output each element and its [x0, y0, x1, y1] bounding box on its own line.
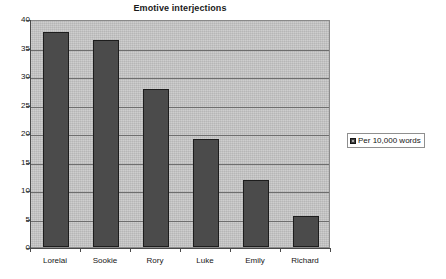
x-axis-tick-mark-2 [130, 248, 131, 252]
bar-luke [193, 139, 219, 247]
bar-rory [143, 89, 169, 247]
x-axis-tick-mark-5 [280, 248, 281, 252]
y-axis-tick-mark-30 [26, 77, 30, 78]
y-axis: 4035302520151050 [0, 0, 30, 279]
x-axis-tick-mark-3 [180, 248, 181, 252]
y-axis-tick-mark-15 [26, 163, 30, 164]
chart-title: Emotive interjections [30, 3, 330, 13]
x-axis-tick-mark-4 [230, 248, 231, 252]
y-axis-tick-mark-20 [26, 134, 30, 135]
gridline-35 [31, 50, 329, 51]
bar-emily [243, 180, 269, 247]
bar-lorelai [43, 32, 69, 247]
y-axis-tick-mark-10 [26, 191, 30, 192]
x-axis-tick-mark-1 [80, 248, 81, 252]
y-axis-line [30, 20, 31, 249]
y-axis-tick-mark-40 [26, 20, 30, 21]
bar-sookie [93, 40, 119, 247]
legend-label-per-10000-words: Per 10,000 words [358, 136, 421, 145]
y-axis-tick-mark-25 [26, 106, 30, 107]
x-axis-tick-label-sookie: Sookie [80, 256, 130, 265]
gridline-30 [31, 78, 329, 79]
plot-area [30, 20, 330, 248]
gridline-10 [31, 192, 329, 193]
x-axis-tick-label-luke: Luke [180, 256, 230, 265]
bar-chart: Emotive interjections 4035302520151050 L… [0, 0, 446, 279]
gridline-25 [31, 107, 329, 108]
gridline-20 [31, 135, 329, 136]
gridline-5 [31, 221, 329, 222]
x-axis-tick-label-richard: Richard [280, 256, 330, 265]
y-axis-tick-mark-35 [26, 49, 30, 50]
x-axis-tick-label-lorelai: Lorelai [30, 256, 80, 265]
legend-swatch-icon [350, 138, 356, 144]
x-axis-tick-mark-0 [30, 248, 31, 252]
x-axis-tick-mark-6 [330, 248, 331, 252]
bar-richard [293, 216, 319, 247]
y-axis-tick-mark-5 [26, 220, 30, 221]
gridline-15 [31, 164, 329, 165]
x-axis-tick-label-emily: Emily [230, 256, 280, 265]
x-axis-tick-label-rory: Rory [130, 256, 180, 265]
chart-legend: Per 10,000 words [347, 133, 425, 148]
